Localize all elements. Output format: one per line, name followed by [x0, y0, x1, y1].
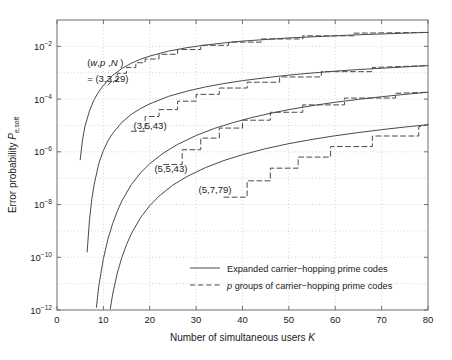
- x-tick-label: 30: [191, 314, 202, 325]
- error-probability-plot: 10−210−410−610−810−1010−1201020304050607…: [0, 0, 452, 360]
- figure-background: [0, 0, 452, 360]
- x-tick-label: 10: [98, 314, 109, 325]
- x-axis-title: Number of simultaneous users K: [170, 332, 316, 343]
- x-tick-label: 20: [144, 314, 155, 325]
- x-tick-label: 60: [330, 314, 341, 325]
- x-tick-label: 70: [376, 314, 387, 325]
- x-tick-label: 0: [54, 314, 59, 325]
- curve-annotation: (w,p ,N ): [87, 57, 123, 68]
- legend-label: p groups of carrier−hopping prime codes: [226, 281, 393, 291]
- chart-figure: 10−210−410−610−810−1010−1201020304050607…: [0, 0, 452, 360]
- curve-annotation: = (3,3,29): [87, 73, 128, 84]
- x-tick-label: 80: [423, 314, 434, 325]
- x-tick-label: 40: [237, 314, 248, 325]
- curve-annotation: (5,5,43): [154, 163, 187, 174]
- curve-annotation: (3,5,43): [134, 120, 167, 131]
- legend-label: Expanded carrier−hopping prime codes: [227, 264, 388, 274]
- x-tick-label: 50: [284, 314, 295, 325]
- curve-annotation: (5,7,79): [198, 184, 231, 195]
